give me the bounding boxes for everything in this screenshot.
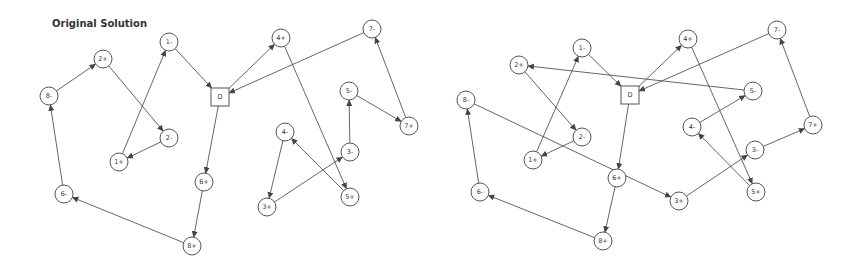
route-edge-2--to-1+ bbox=[127, 142, 161, 158]
customer-node: 4- bbox=[683, 118, 701, 136]
route-edge-D-to-4+ bbox=[229, 44, 275, 88]
customer-node: 2+ bbox=[510, 56, 528, 74]
customer-node: 2- bbox=[573, 128, 591, 146]
customer-node: 4+ bbox=[679, 30, 697, 48]
customer-node: 2- bbox=[160, 129, 178, 147]
diagram-original-solution: Original Solution D1-2+8-2-1+6-6+8+4+7-5… bbox=[40, 18, 418, 255]
route-edge-D-to-6+ bbox=[206, 106, 219, 173]
node-label: 6- bbox=[477, 188, 484, 196]
depot-label: D bbox=[217, 93, 222, 101]
customer-node: 7+ bbox=[804, 116, 822, 134]
node-label: 2- bbox=[579, 133, 586, 141]
node-label: 2+ bbox=[98, 55, 108, 63]
node-label: 8+ bbox=[187, 242, 197, 250]
customer-node: 3+ bbox=[258, 198, 276, 216]
customer-node: 1- bbox=[160, 33, 178, 51]
route-nodes: D1-2+8-2-1+6-6+8+4+7-5-7+4-3-5+3+ bbox=[40, 20, 418, 255]
route-edge-1--to-D bbox=[588, 54, 621, 86]
node-label: 8- bbox=[463, 96, 470, 104]
node-label: 7+ bbox=[404, 122, 414, 130]
node-label: 8- bbox=[46, 92, 53, 100]
node-label: 1- bbox=[166, 38, 173, 46]
route-edge-1--to-D bbox=[175, 49, 212, 88]
customer-node: 3+ bbox=[670, 192, 688, 210]
node-label: 3+ bbox=[262, 203, 272, 211]
route-edge-4--to-5- bbox=[700, 96, 745, 123]
route-edge-7+-to-7- bbox=[780, 38, 810, 116]
node-label: 4- bbox=[689, 123, 696, 131]
customer-node: 5- bbox=[340, 82, 358, 100]
customer-node: 8+ bbox=[594, 232, 612, 250]
customer-node: 1+ bbox=[524, 151, 542, 169]
customer-node: 8- bbox=[457, 91, 475, 109]
route-edge-4+-to-5+ bbox=[285, 46, 347, 188]
route-edge-6+-to-8+ bbox=[605, 187, 615, 232]
customer-node: 4- bbox=[276, 123, 294, 141]
node-label: 8+ bbox=[598, 237, 608, 245]
route-edge-D-to-4+ bbox=[639, 45, 682, 86]
route-edge-8--to-3+ bbox=[474, 104, 671, 197]
route-edge-3+-to-3- bbox=[686, 155, 747, 196]
node-label: 5- bbox=[750, 87, 757, 95]
customer-node: 5- bbox=[744, 82, 762, 100]
node-label: 1+ bbox=[114, 158, 124, 166]
node-label: 7- bbox=[774, 26, 781, 34]
customer-node: 3- bbox=[341, 143, 359, 161]
customer-node: 7- bbox=[768, 21, 786, 39]
customer-node: 7- bbox=[363, 20, 381, 38]
customer-node: 8- bbox=[40, 87, 58, 105]
node-label: 6+ bbox=[199, 178, 209, 186]
route-edge-1+-to-1- bbox=[122, 50, 165, 153]
route-edge-6--to-8- bbox=[50, 105, 62, 185]
node-label: 5+ bbox=[751, 188, 761, 196]
route-edge-3--to-5- bbox=[349, 100, 350, 143]
node-label: 7+ bbox=[808, 121, 818, 129]
route-edge-D-to-6+ bbox=[618, 104, 628, 169]
node-label: 5+ bbox=[345, 193, 355, 201]
customer-node: 4+ bbox=[272, 29, 290, 47]
node-label: 3- bbox=[752, 146, 759, 154]
route-edge-6+-to-8+ bbox=[194, 191, 203, 237]
route-edge-5--to-7+ bbox=[357, 96, 401, 122]
node-label: 1- bbox=[579, 44, 586, 52]
node-label: 3+ bbox=[674, 197, 684, 205]
route-diagrams-canvas: Original Solution D1-2+8-2-1+6-6+8+4+7-5… bbox=[0, 0, 861, 271]
node-label: 6+ bbox=[612, 174, 622, 182]
node-label: 5- bbox=[346, 87, 353, 95]
customer-node: 6+ bbox=[608, 169, 626, 187]
node-label: 1+ bbox=[528, 156, 538, 164]
route-edge-8--to-2+ bbox=[56, 64, 95, 91]
route-edge-8+-to-6- bbox=[488, 195, 594, 237]
depot-node: D bbox=[211, 88, 229, 106]
route-edge-6--to-8- bbox=[467, 109, 478, 183]
customer-node: 7+ bbox=[400, 117, 418, 135]
customer-node: 6+ bbox=[195, 173, 213, 191]
depot-label: D bbox=[627, 91, 632, 99]
node-label: 2+ bbox=[514, 61, 524, 69]
node-label: 2- bbox=[166, 134, 173, 142]
customer-node: 6- bbox=[471, 183, 489, 201]
route-edge-3--to-7+ bbox=[763, 129, 804, 147]
node-label: 6- bbox=[61, 190, 68, 198]
route-edge-4+-to-5+ bbox=[692, 47, 753, 184]
node-label: 4+ bbox=[276, 34, 286, 42]
route-edge-1+-to-1- bbox=[537, 56, 579, 152]
depot-node: D bbox=[621, 86, 639, 104]
customer-node: 1- bbox=[573, 39, 591, 57]
diagram-improved-solution: D1-2+8-2-1+6-6+8+4+7-5-4-7+3-5+3+ bbox=[457, 21, 822, 250]
node-label: 7- bbox=[369, 25, 376, 33]
customer-node: 6- bbox=[55, 185, 73, 203]
customer-node: 3- bbox=[746, 141, 764, 159]
customer-node: 1+ bbox=[110, 153, 128, 171]
customer-node: 8+ bbox=[183, 237, 201, 255]
node-label: 3- bbox=[347, 148, 354, 156]
route-edge-8+-to-6- bbox=[72, 197, 183, 242]
route-edge-2+-to-2- bbox=[525, 72, 576, 130]
route-edge-7+-to-7- bbox=[375, 37, 406, 117]
customer-node: 5+ bbox=[747, 183, 765, 201]
customer-node: 5+ bbox=[341, 188, 359, 206]
route-nodes: D1-2+8-2-1+6-6+8+4+7-5-4-7+3-5+3+ bbox=[457, 21, 822, 250]
customer-node: 2+ bbox=[94, 50, 112, 68]
diagram-title: Original Solution bbox=[52, 18, 147, 29]
route-edge-4--to-3+ bbox=[269, 141, 283, 198]
